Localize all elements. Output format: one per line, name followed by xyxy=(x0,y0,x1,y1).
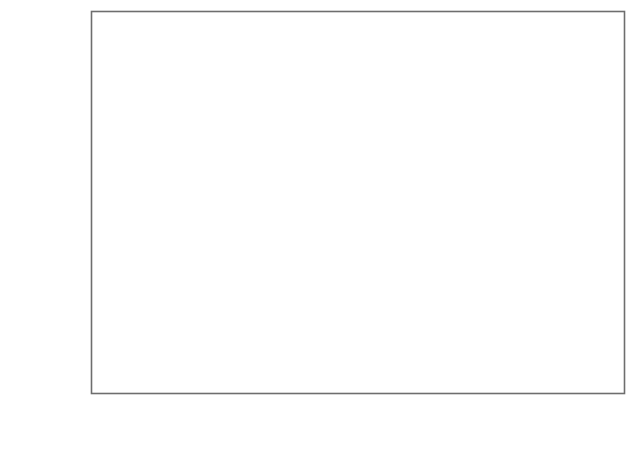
chart-canvas xyxy=(0,0,642,465)
chart-background xyxy=(0,0,642,465)
normal-probability-plot xyxy=(0,0,642,465)
